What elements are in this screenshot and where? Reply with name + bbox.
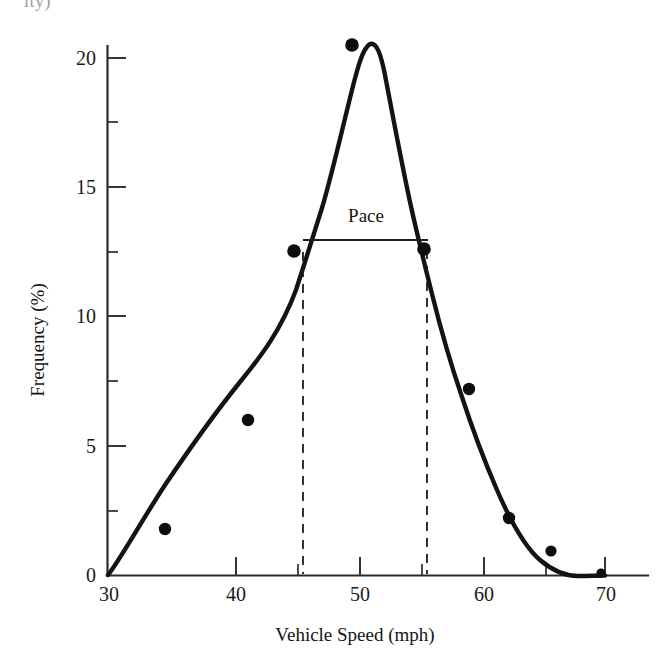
- data-point: [287, 244, 301, 258]
- x-tick-label-30: 30: [99, 583, 119, 605]
- data-point: [545, 545, 556, 556]
- data-point: [345, 38, 359, 52]
- y-axis-ticks: [108, 58, 126, 511]
- pace-label: Pace: [348, 205, 384, 226]
- y-axis-tick-labels: 20 15 10 5 0: [76, 47, 96, 586]
- data-point: [417, 242, 431, 256]
- y-axis-title: Frequency (%): [27, 283, 49, 396]
- y-tick-label-10: 10: [76, 305, 96, 327]
- data-point: [159, 523, 171, 535]
- y-tick-label-0: 0: [86, 564, 96, 586]
- axes: [107, 46, 648, 576]
- x-tick-label-60: 60: [474, 583, 494, 605]
- pace-annotation: Pace: [303, 205, 428, 574]
- data-point: [463, 383, 475, 395]
- y-tick-label-5: 5: [86, 435, 96, 457]
- y-tick-label-15: 15: [76, 176, 96, 198]
- data-point: [596, 568, 605, 577]
- x-tick-label-70: 70: [596, 583, 616, 605]
- data-point: [503, 512, 515, 524]
- x-axis-title: Vehicle Speed (mph): [275, 624, 434, 646]
- y-tick-label-20: 20: [76, 47, 96, 69]
- data-point: [242, 414, 254, 426]
- speed-frequency-chart: 20 15 10 5 0 30 40 50 60 70 Pace: [0, 0, 663, 663]
- data-points: [159, 38, 606, 577]
- x-tick-label-50: 50: [350, 583, 370, 605]
- x-tick-label-40: 40: [226, 583, 246, 605]
- distribution-curve: [108, 44, 605, 576]
- x-axis-tick-labels: 30 40 50 60 70: [99, 583, 616, 605]
